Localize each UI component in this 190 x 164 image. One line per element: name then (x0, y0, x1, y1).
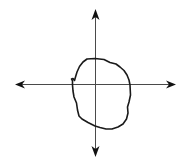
diagram-canvas (0, 0, 190, 164)
y-axis (92, 9, 100, 157)
closed-curve (72, 59, 131, 130)
coordinate-diagram (0, 0, 190, 164)
